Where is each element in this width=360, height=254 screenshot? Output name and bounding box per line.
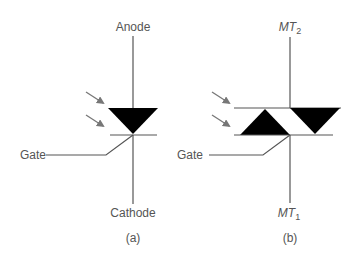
mt2-label: MT2: [279, 20, 301, 36]
up-triangle: [240, 109, 290, 135]
light-arrow-icon: [86, 115, 103, 126]
gate-label: Gate: [177, 148, 203, 162]
caption-a: (a): [126, 231, 141, 245]
gate-lead: [46, 135, 133, 155]
cathode-label: Cathode: [110, 206, 156, 220]
diagram-canvas: Anode Gate Cathode (a) MT2 Gate MT1 (b): [0, 0, 360, 254]
mt1-label: MT1: [278, 206, 300, 222]
diode-triangle: [108, 108, 158, 134]
light-arrow-icon: [212, 115, 229, 126]
light-arrow-icon: [212, 92, 229, 103]
caption-b: (b): [283, 231, 298, 245]
down-triangle: [290, 108, 340, 134]
triac-symbol: MT2 Gate MT1 (b): [177, 20, 341, 245]
anode-label: Anode: [116, 20, 151, 34]
gate-label: Gate: [20, 148, 46, 162]
scr-symbol: Anode Gate Cathode (a): [20, 20, 158, 245]
light-arrow-icon: [86, 92, 103, 103]
gate-lead: [209, 135, 290, 155]
